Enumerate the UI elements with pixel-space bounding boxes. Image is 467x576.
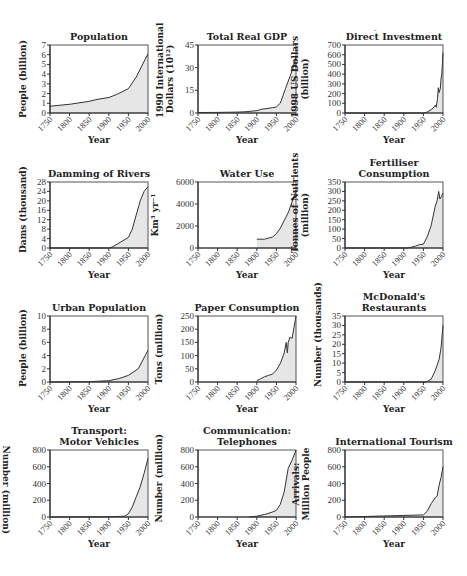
svg-text:50: 50 bbox=[332, 234, 342, 244]
svg-text:1950: 1950 bbox=[262, 114, 281, 133]
y-axis-label: People (billion) bbox=[18, 40, 28, 118]
svg-text:1800: 1800 bbox=[55, 518, 74, 537]
svg-text:1750: 1750 bbox=[35, 383, 54, 402]
y-axis-label: Dams (thousand) bbox=[18, 177, 28, 253]
svg-text:6: 6 bbox=[42, 337, 47, 347]
plot-area: 0200400600800175018001850190019502000 bbox=[10, 444, 168, 551]
svg-text:35: 35 bbox=[332, 311, 342, 321]
svg-text:2000: 2000 bbox=[428, 383, 447, 402]
x-axis-label: Year bbox=[50, 270, 148, 280]
svg-text:10: 10 bbox=[332, 358, 342, 368]
svg-text:1750: 1750 bbox=[35, 114, 54, 133]
x-axis-label: Year bbox=[50, 135, 148, 145]
svg-text:1750: 1750 bbox=[183, 114, 202, 133]
svg-text:300: 300 bbox=[328, 79, 342, 89]
svg-text:1950: 1950 bbox=[114, 114, 133, 133]
x-axis-label: Year bbox=[345, 539, 443, 549]
svg-text:1: 1 bbox=[42, 98, 47, 108]
svg-text:1850: 1850 bbox=[75, 114, 94, 133]
svg-text:7: 7 bbox=[42, 40, 47, 50]
svg-text:1950: 1950 bbox=[262, 383, 281, 402]
svg-text:1800: 1800 bbox=[55, 383, 74, 402]
svg-text:6000: 6000 bbox=[176, 177, 195, 187]
y-axis-label: Arrivals:Million People bbox=[290, 445, 310, 522]
svg-text:250: 250 bbox=[181, 311, 195, 321]
plot-area: 0100200300400500600700175018001850190019… bbox=[305, 39, 463, 147]
svg-text:25: 25 bbox=[332, 330, 342, 340]
svg-text:1950: 1950 bbox=[114, 249, 133, 268]
svg-text:6: 6 bbox=[42, 50, 47, 60]
svg-text:28: 28 bbox=[37, 177, 47, 187]
svg-text:2000: 2000 bbox=[133, 114, 152, 133]
svg-text:1750: 1750 bbox=[330, 383, 349, 402]
plot-area: 0501001502002503003501750180018501900195… bbox=[305, 176, 463, 282]
plot-area: 0246810175018001850190019502000 bbox=[10, 310, 168, 416]
area-fill bbox=[249, 450, 296, 517]
data-line bbox=[345, 325, 443, 382]
svg-text:1950: 1950 bbox=[409, 249, 428, 268]
svg-text:1750: 1750 bbox=[183, 518, 202, 537]
area-fill bbox=[50, 187, 148, 248]
area-fill bbox=[198, 57, 296, 113]
svg-text:1850: 1850 bbox=[370, 518, 389, 537]
svg-text:100: 100 bbox=[328, 98, 342, 108]
svg-text:20: 20 bbox=[332, 339, 342, 349]
svg-text:100: 100 bbox=[181, 351, 195, 361]
plot-area: 0481216202428175018001850190019502000 bbox=[10, 176, 168, 282]
svg-text:1850: 1850 bbox=[223, 114, 242, 133]
svg-text:4: 4 bbox=[42, 234, 47, 244]
svg-text:2000: 2000 bbox=[281, 383, 300, 402]
svg-text:1850: 1850 bbox=[370, 383, 389, 402]
svg-text:1800: 1800 bbox=[203, 249, 222, 268]
area-fill bbox=[50, 458, 148, 517]
svg-text:2000: 2000 bbox=[133, 383, 152, 402]
y-axis-label: Tons (million) bbox=[154, 311, 164, 387]
svg-text:350: 350 bbox=[328, 177, 342, 187]
svg-text:2000: 2000 bbox=[133, 518, 152, 537]
svg-text:700: 700 bbox=[328, 40, 342, 50]
svg-text:200: 200 bbox=[328, 205, 342, 215]
x-axis-label: Year bbox=[198, 404, 296, 414]
svg-text:8: 8 bbox=[42, 324, 47, 334]
y-axis-label: People (billion) bbox=[18, 311, 28, 387]
svg-text:100: 100 bbox=[328, 224, 342, 234]
svg-text:300: 300 bbox=[328, 186, 342, 196]
svg-text:30: 30 bbox=[332, 320, 342, 330]
svg-text:1850: 1850 bbox=[75, 383, 94, 402]
y-axis-label: Number (million) bbox=[154, 445, 164, 522]
svg-text:1950: 1950 bbox=[409, 114, 428, 133]
x-axis-label: Year bbox=[50, 539, 148, 549]
x-axis-label: Year bbox=[198, 539, 296, 549]
plot-area: 01234567175018001850190019502000 bbox=[10, 39, 168, 147]
svg-text:1900: 1900 bbox=[94, 249, 113, 268]
svg-text:1900: 1900 bbox=[242, 383, 261, 402]
svg-text:1850: 1850 bbox=[370, 114, 389, 133]
plot-area: 050100150200250175018001850190019502000 bbox=[158, 310, 316, 416]
svg-text:1850: 1850 bbox=[223, 383, 242, 402]
svg-text:15: 15 bbox=[185, 85, 195, 95]
svg-text:1750: 1750 bbox=[35, 249, 54, 268]
area-fill bbox=[50, 350, 148, 382]
svg-text:24: 24 bbox=[37, 186, 47, 196]
area-fill bbox=[257, 316, 296, 382]
svg-text:1850: 1850 bbox=[223, 518, 242, 537]
svg-text:45: 45 bbox=[185, 40, 195, 50]
svg-text:1750: 1750 bbox=[330, 114, 349, 133]
svg-text:1950: 1950 bbox=[262, 518, 281, 537]
svg-text:5: 5 bbox=[42, 59, 47, 69]
svg-text:1800: 1800 bbox=[350, 383, 369, 402]
y-axis-label: Number (thousands) bbox=[313, 311, 323, 387]
svg-text:1900: 1900 bbox=[94, 383, 113, 402]
area-fill bbox=[345, 53, 443, 113]
svg-text:1950: 1950 bbox=[409, 383, 428, 402]
svg-text:600: 600 bbox=[328, 50, 342, 60]
svg-text:800: 800 bbox=[33, 445, 47, 455]
svg-text:1950: 1950 bbox=[114, 518, 133, 537]
svg-text:1900: 1900 bbox=[242, 518, 261, 537]
svg-text:5: 5 bbox=[337, 368, 342, 378]
svg-text:400: 400 bbox=[328, 69, 342, 79]
svg-text:400: 400 bbox=[181, 479, 195, 489]
plot-area: 0200400600800175018001850190019502000 bbox=[305, 444, 463, 551]
data-line bbox=[345, 467, 443, 517]
svg-text:2000: 2000 bbox=[428, 114, 447, 133]
